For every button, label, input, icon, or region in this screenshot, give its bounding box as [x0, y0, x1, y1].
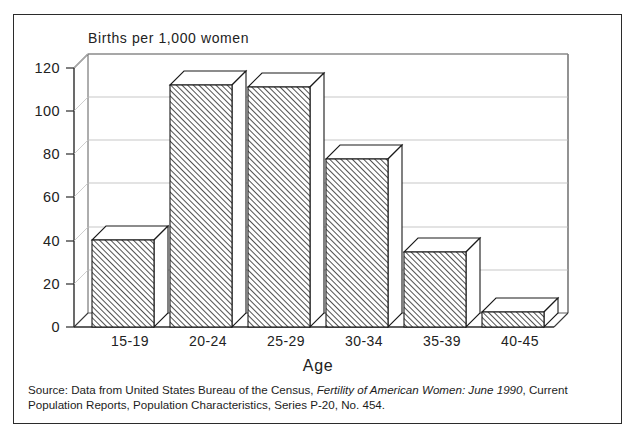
x-tick-label-15-19: 15-19 [95, 333, 165, 349]
x-tick-label-20-24: 20-24 [173, 333, 243, 349]
y-tick-label-120: 120 [20, 60, 60, 76]
x-tick-label-40-45: 40-45 [485, 333, 555, 349]
y-tick-label-20: 20 [20, 276, 60, 292]
x-tick-label-25-29: 25-29 [251, 333, 321, 349]
source-note: Source: Data from United States Bureau o… [28, 383, 608, 412]
chart-title: Births per 1,000 women [88, 30, 249, 46]
y-tick-label-0: 0 [20, 319, 60, 335]
x-tick-label-35-39: 35-39 [407, 333, 477, 349]
x-tick-label-30-34: 30-34 [329, 333, 399, 349]
x-axis-title: Age [0, 357, 636, 375]
source-prefix: Source: Data from United States Bureau o… [28, 383, 317, 396]
y-tick-label-100: 100 [20, 103, 60, 119]
y-tick-label-60: 60 [20, 189, 60, 205]
source-publication-title: Fertility of American Women: June 1990 [317, 383, 523, 396]
y-tick-label-80: 80 [20, 146, 60, 162]
y-tick-label-40: 40 [20, 233, 60, 249]
